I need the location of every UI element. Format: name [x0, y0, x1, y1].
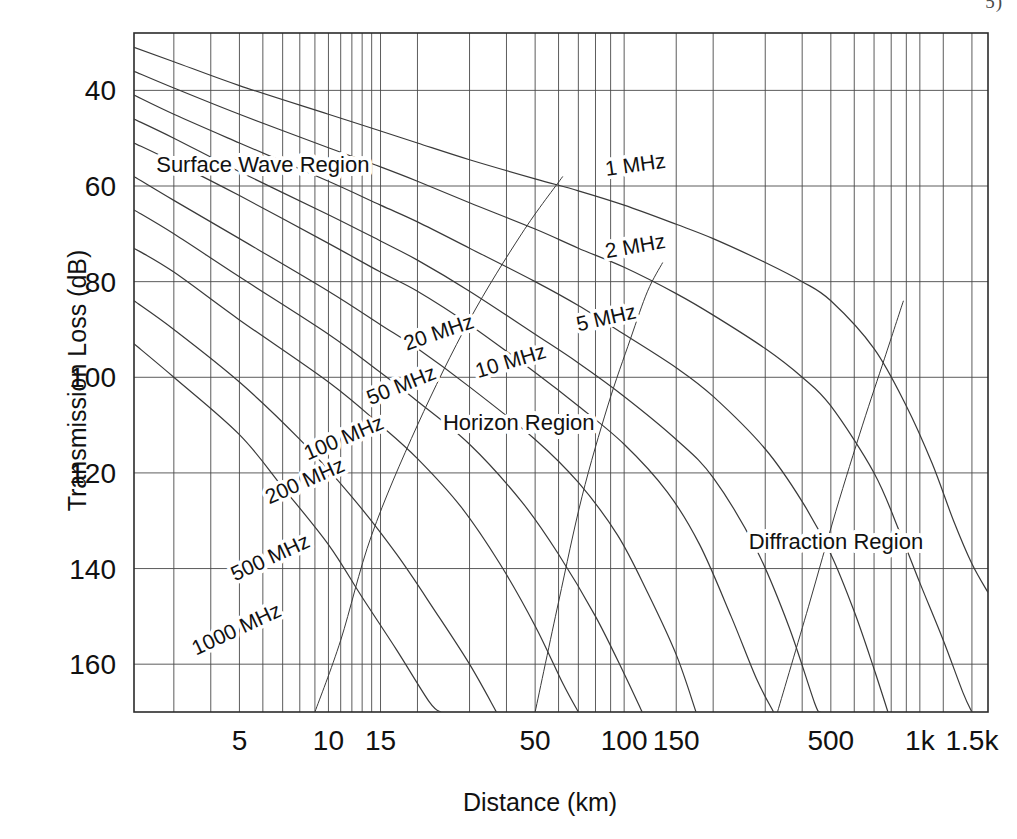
annotation-text: Horizon Region	[443, 410, 595, 435]
curve-label-1-mhz: 1 MHz1 MHz	[604, 149, 667, 180]
curve-label-text: 200 MHz	[261, 453, 347, 508]
x-tick-label: 5	[232, 725, 248, 756]
chart-page: 5) 1 MHz1 MHz2 MHz2 MHz5 MHz5 MHz10 MHz1…	[0, 0, 1017, 839]
curve-label-2-mhz: 2 MHz2 MHz	[603, 229, 667, 262]
boundary-curve	[777, 301, 903, 712]
curve-label-100-mhz: 100 MHz100 MHz	[300, 410, 386, 464]
curve-label-text: 20 MHz	[401, 309, 477, 354]
x-tick-label: 150	[653, 725, 700, 756]
y-tick-label: 40	[85, 75, 116, 106]
x-tick-label: 100	[601, 725, 648, 756]
annotation-diffraction-region: Diffraction RegionDiffraction Region	[749, 529, 923, 554]
annotation-horizon-region: Horizon RegionHorizon Region	[443, 410, 595, 435]
x-tick-label: 1.5k	[945, 725, 999, 756]
curve-label-1000-mhz: 1000 MHz1000 MHz	[188, 598, 284, 659]
curve-label-text: 10 MHz	[473, 339, 549, 382]
curve-label-text: 1000 MHz	[188, 598, 284, 659]
transmission-loss-chart: 1 MHz1 MHz2 MHz2 MHz5 MHz5 MHz10 MHz10 M…	[0, 0, 1017, 839]
annotation-text: Surface Wave Region	[156, 152, 369, 177]
x-tick-label: 500	[807, 725, 854, 756]
annotation-surface-wave-region: Surface Wave RegionSurface Wave Region	[156, 152, 369, 177]
x-tick-labels: 51015501001505001k1.5k	[232, 725, 1000, 756]
y-tick-label: 160	[69, 649, 116, 680]
curve-label-20-mhz: 20 MHz20 MHz	[401, 309, 477, 354]
x-axis-title: Distance (km)	[420, 788, 660, 817]
curve-label-text: 1 MHz	[604, 149, 667, 180]
curve-label-text: 2 MHz	[603, 229, 667, 262]
x-tick-label: 10	[313, 725, 344, 756]
curve-label-text: 5 MHz	[574, 299, 638, 335]
curve-label-5-mhz: 5 MHz5 MHz	[574, 299, 638, 335]
y-axis-title: Transmission Loss (dB)	[63, 171, 92, 591]
x-tick-label: 1k	[905, 725, 936, 756]
curve-label-200-mhz: 200 MHz200 MHz	[261, 453, 347, 508]
frequency-curve	[134, 47, 988, 592]
curve-label-10-mhz: 10 MHz10 MHz	[473, 339, 549, 382]
curve-label-text: 100 MHz	[300, 410, 386, 464]
annotation-text: Diffraction Region	[749, 529, 923, 554]
x-tick-label: 15	[365, 725, 396, 756]
x-tick-label: 50	[520, 725, 551, 756]
